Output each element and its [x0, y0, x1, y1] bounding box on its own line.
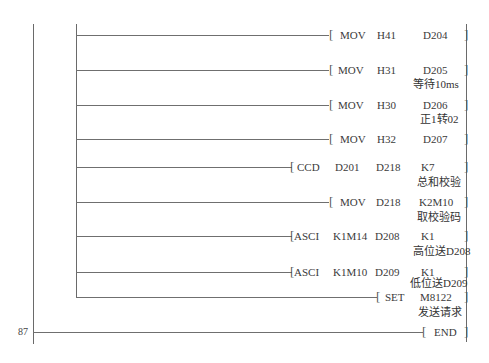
open-bracket: [: [376, 291, 380, 303]
close-bracket: ]: [464, 230, 468, 242]
operand: H41: [377, 29, 396, 41]
branch-rail: [76, 24, 77, 298]
step-number: 87: [18, 326, 28, 338]
operand: D218: [376, 196, 400, 208]
close-bracket: ]: [464, 161, 468, 173]
operand: D201: [335, 161, 359, 173]
close-bracket: ]: [464, 326, 468, 338]
instruction: MOV: [338, 99, 364, 111]
comment: 取校验码: [417, 211, 461, 223]
comment: 高位送D208: [413, 245, 470, 257]
instruction: MOV: [338, 64, 364, 76]
open-bracket: [: [329, 196, 333, 208]
instruction: ASCI: [294, 230, 319, 242]
open-bracket: [: [290, 161, 294, 173]
open-bracket: [: [422, 326, 426, 338]
operand: K7: [421, 161, 434, 173]
operand: M8122: [420, 291, 452, 303]
comment: 总和校验: [417, 176, 461, 188]
operand: D208: [375, 230, 399, 242]
operand: D218: [376, 161, 400, 173]
operand: K1: [421, 230, 434, 242]
close-bracket: ]: [464, 29, 468, 41]
instruction: SET: [385, 291, 405, 303]
left-power-rail: [33, 24, 34, 344]
close-bracket: ]: [464, 196, 468, 208]
instruction: MOV: [340, 29, 366, 41]
rung-wire-8: [76, 272, 292, 273]
rung-wire-end: [33, 332, 423, 333]
rung-wire-1: [76, 35, 329, 36]
open-bracket: [: [329, 133, 333, 145]
close-bracket: ]: [464, 291, 468, 303]
end-instruction: END: [434, 326, 457, 338]
open-bracket: [: [329, 99, 333, 111]
operand: D204: [423, 29, 447, 41]
comment: 等待10ms: [413, 78, 459, 90]
instruction: CCD: [297, 161, 320, 173]
close-bracket: ]: [464, 99, 468, 111]
operand: K1M10: [333, 266, 367, 278]
comment: 低位送D209: [410, 277, 467, 289]
rung-wire-4: [76, 139, 329, 140]
instruction: ASCI: [294, 266, 319, 278]
operand: H32: [377, 133, 396, 145]
instruction: MOV: [340, 196, 366, 208]
operand: D205: [423, 64, 447, 76]
operand: D209: [375, 266, 399, 278]
close-bracket: ]: [464, 64, 468, 76]
operand: D206: [423, 99, 447, 111]
comment: 正1转02: [420, 113, 459, 125]
close-bracket: ]: [464, 133, 468, 145]
instruction: MOV: [340, 133, 366, 145]
operand: K2M10: [419, 196, 453, 208]
operand: H31: [377, 64, 396, 76]
open-bracket: [: [329, 29, 333, 41]
comment: 发送请求: [418, 306, 462, 318]
rung-wire-7: [76, 236, 292, 237]
rung-wire-6: [76, 202, 329, 203]
rung-wire-2: [76, 70, 329, 71]
operand: K1M14: [333, 230, 367, 242]
open-bracket: [: [329, 64, 333, 76]
operand: H30: [377, 99, 396, 111]
operand: D207: [423, 133, 447, 145]
rung-wire-5: [76, 167, 292, 168]
rung-wire-3: [76, 105, 329, 106]
rung-wire-9: [76, 297, 377, 298]
